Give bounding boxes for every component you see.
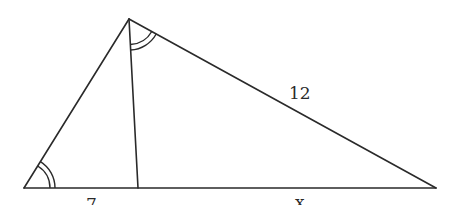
label-7: 7 <box>86 194 97 205</box>
label-12: 12 <box>289 83 311 103</box>
label-x: x <box>295 192 305 205</box>
apex-angle-mark <box>130 32 156 51</box>
right-side <box>129 19 436 188</box>
triangle-diagram: 12 7 x <box>0 0 466 205</box>
left-angle-mark <box>38 162 55 188</box>
left-side <box>24 19 129 188</box>
